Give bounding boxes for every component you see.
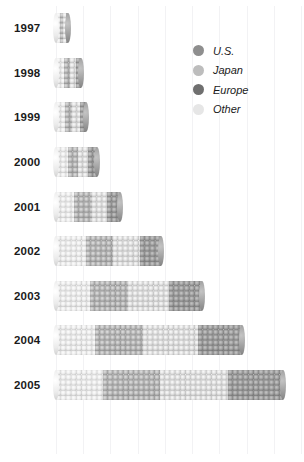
bar-segment-japan [65,102,73,132]
stacked-bar [56,325,242,355]
bar-segment-other [56,281,90,311]
bar-segment-europe [143,325,198,355]
bar-segment-us [169,281,202,311]
x-tick-label: 50 [80,0,86,1]
stacked-bar [56,236,161,266]
stacked-bar [56,102,86,132]
legend-item-japan[interactable]: Japan [193,61,298,81]
chart-row: 2001 [0,184,304,229]
bar-segment-japan [74,192,91,222]
stacked-bar [56,58,81,88]
x-tick-label: 0 [55,0,58,1]
legend-swatch-icon [193,104,204,115]
legend-item-us[interactable]: U.S. [193,41,298,61]
stacked-bar [56,13,68,43]
bar-segment-us [76,58,81,88]
x-tick-label: 450 [297,0,304,1]
chart-row: 2004 [0,318,304,363]
bar-segment-us [198,325,241,355]
bar-segment-us [107,192,120,222]
bar-segment-other [56,147,68,177]
bar-segment-other [56,192,74,222]
x-tick-label: 250 [188,0,196,1]
bar-segment-japan [64,58,71,88]
stacked-bar-chart: 050100150200250300350400450 199719981999… [0,0,304,462]
legend-label: U.S. [213,45,234,57]
bar-segment-us [228,370,283,400]
year-label: 2001 [14,201,40,213]
legend-item-europe[interactable]: Europe [193,80,298,100]
bar-segment-other [56,58,64,88]
year-label: 2003 [14,290,40,302]
legend-swatch-icon [193,84,204,95]
bar-segment-japan [68,147,79,177]
bar-segment-europe [160,370,228,400]
chart-row: 2003 [0,274,304,319]
bar-segment-europe [72,102,79,132]
year-label: 2002 [14,245,40,257]
stacked-bar [56,281,202,311]
legend-swatch-icon [193,65,204,76]
year-label: 1997 [14,22,40,34]
bar-segment-other [56,102,65,132]
bar-segment-europe [128,281,169,311]
legend-label: Europe [213,84,248,96]
bar-segment-japan [86,236,114,266]
bar-segment-us [88,147,97,177]
bar-segment-japan [95,325,142,355]
stacked-bar [56,147,97,177]
legend-swatch-icon [193,45,204,56]
year-label: 1999 [14,111,40,123]
bar-segment-other [56,236,86,266]
x-tick-label: 100 [106,0,114,1]
bar-segment-us [140,236,162,266]
x-tick-label: 400 [270,0,278,1]
legend-label: Japan [213,64,243,76]
bar-segment-us [80,102,86,132]
bar-segment-europe [92,192,108,222]
bar-segment-other [56,325,95,355]
year-label: 1998 [14,67,40,79]
stacked-bar [56,370,283,400]
year-label: 2005 [14,379,40,391]
chart-row: 2000 [0,140,304,185]
bar-segment-other [56,370,103,400]
chart-row: 2002 [0,229,304,274]
x-tick-label: 300 [215,0,223,1]
x-tick-label: 150 [133,0,141,1]
legend-label: Other [213,103,241,115]
legend-item-other[interactable]: Other [193,100,298,120]
chart-legend: U.S.JapanEuropeOther [193,41,298,119]
bar-segment-japan [90,281,128,311]
year-label: 2004 [14,334,40,346]
bar-segment-japan [103,370,160,400]
bar-segment-europe [78,147,88,177]
bar-segment-europe [113,236,139,266]
stacked-bar [56,192,120,222]
x-tick-label: 350 [242,0,250,1]
bar-segment-us [66,13,68,43]
year-label: 2000 [14,156,40,168]
x-tick-label: 200 [161,0,169,1]
chart-row: 2005 [0,363,304,408]
